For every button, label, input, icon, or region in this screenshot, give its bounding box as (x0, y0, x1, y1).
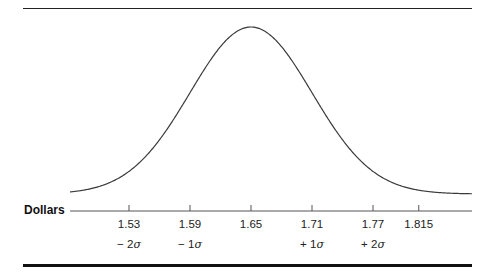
x-axis-ticks (129, 205, 419, 211)
tick-label: 1.815 (404, 218, 433, 230)
tick-label: 1.71 (301, 218, 323, 230)
bell-curve-plot (0, 0, 496, 272)
sigma-label: − 1σ (178, 238, 202, 251)
sigma-label: − 2σ (117, 238, 141, 251)
normal-distribution-curve (70, 27, 472, 194)
x-axis-label: Dollars (24, 203, 65, 217)
tick-label: 1.53 (118, 218, 140, 230)
tick-label: 1.77 (362, 218, 384, 230)
tick-label: 1.59 (179, 218, 201, 230)
tick-label: 1.65 (240, 218, 262, 230)
bottom-rule (23, 264, 472, 267)
sigma-label: + 2σ (361, 238, 385, 251)
sigma-label: + 1σ (300, 238, 324, 251)
